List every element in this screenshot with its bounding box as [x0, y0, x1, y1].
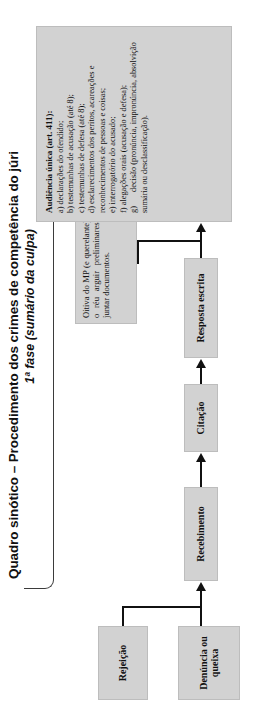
- node-rejeicao[interactable]: Rejeição: [98, 626, 148, 700]
- connector-rejeicao-branch-horizontal: [122, 606, 124, 626]
- audiencia-item-a: a) declarações do ofendido;: [56, 34, 67, 213]
- connector-rejeicao-branch-vertical: [122, 606, 202, 608]
- audiencia-item-g-text: decisão (pronúncia, impronúncia, absolvi…: [129, 42, 149, 213]
- connector-oitiva-branch-vertical: [137, 240, 201, 242]
- audiencia-heading: Audiência única (art. 411):: [44, 34, 55, 213]
- audiencia-item-g: g)decisão (pronúncia, impronúncia, absol…: [129, 34, 150, 213]
- node-citacao[interactable]: Citação: [184, 384, 218, 452]
- diagram-title: Quadro sinótico – Procedimento dos crime…: [6, 34, 39, 579]
- page-title-line-1: Quadro sinótico – Procedimento dos crime…: [6, 34, 23, 579]
- flowchart-canvas: Quadro sinótico – Procedimento dos crime…: [0, 0, 275, 708]
- audiencia-item-d: d) esclarecimentos dos peritos, acareaçõ…: [87, 34, 108, 213]
- arrowhead-recebimento: [196, 582, 206, 591]
- node-recebimento[interactable]: Recebimento: [184, 487, 218, 581]
- audiencia-item-g-label: g): [129, 206, 138, 213]
- rotated-canvas-wrapper: Quadro sinótico – Procedimento dos crime…: [0, 0, 275, 708]
- connector-citacao-resposta: [200, 367, 202, 384]
- connector-denuncia-recebimento: [200, 590, 202, 626]
- arrowhead-citacao: [196, 453, 206, 462]
- audiencia-item-e: e) interrogatório do acusado;: [108, 34, 119, 213]
- audiencia-item-f: f) alegações orais (acusação e defesa);: [119, 34, 130, 213]
- connector-oitiva-branch-horizontal: [137, 240, 139, 264]
- connector-resposta-audiencia: [200, 231, 202, 258]
- arrowhead-resposta: [196, 359, 206, 368]
- node-audiencia-unica[interactable]: Audiência única (art. 411): a) declaraçõ…: [36, 26, 232, 222]
- arrowhead-audiencia: [196, 223, 206, 232]
- node-denuncia-ou-queixa[interactable]: Denúncia ou queixa: [178, 626, 240, 700]
- diagram-page: Quadro sinótico – Procedimento dos crime…: [0, 0, 275, 708]
- connector-recebimento-citacao: [200, 461, 202, 487]
- node-resposta-escrita[interactable]: Resposta escrita: [184, 258, 218, 358]
- audiencia-item-c: c) testemunhas de defesa (até 8);: [77, 34, 88, 213]
- audiencia-item-b: b) testemunhas de acusação (até 8);: [66, 34, 77, 213]
